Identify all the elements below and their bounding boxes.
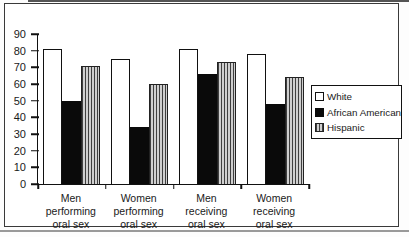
legend-label-hispanic: Hispanic [327, 122, 365, 133]
category-label-line: oral sex [105, 218, 173, 231]
y-axis-label-40: 40 [14, 112, 26, 123]
bar-hispanic-men-performing-oral-sex [81, 66, 100, 184]
category-label-line: Women [240, 192, 308, 205]
bar-hispanic-women-performing-oral-sex [149, 84, 168, 184]
category-label-line: Men [173, 192, 241, 205]
category-label-line: Women [105, 192, 173, 205]
x-axis-labels: Menperformingoral sexWomenperformingoral… [37, 192, 308, 231]
legend-swatch-hispanic [315, 123, 324, 132]
bar-african-american-men-performing-oral-sex [62, 101, 81, 184]
bar-hispanic-women-receiving-oral-sex [285, 77, 304, 184]
bar-african-american-men-receiving-oral-sex [198, 74, 217, 184]
page-rule-top [28, 0, 409, 2]
bar-group-men-receiving-oral-sex [174, 34, 242, 184]
category-label-women-performing-oral-sex: Womenperformingoral sex [105, 192, 173, 231]
y-axis-label-50: 50 [14, 95, 26, 106]
category-label-line: receiving [173, 205, 241, 218]
bar-group-women-performing-oral-sex [106, 34, 174, 184]
category-label-women-receiving-oral-sex: Womenreceivingoral sex [240, 192, 308, 231]
x-axis-tick-2 [173, 184, 175, 189]
plot-area [37, 34, 309, 185]
legend-label-african-american: African American [327, 107, 401, 118]
category-label-line: performing [37, 205, 105, 218]
legend-item-white: White [315, 91, 398, 102]
category-label-line: Men [37, 192, 105, 205]
category-label-line: receiving [240, 205, 308, 218]
category-label-line: performing [105, 205, 173, 218]
y-axis-label-60: 60 [14, 79, 26, 90]
category-label-men-receiving-oral-sex: Menreceivingoral sex [173, 192, 241, 231]
category-label-line: oral sex [173, 218, 241, 231]
bar-hispanic-men-receiving-oral-sex [217, 62, 236, 184]
x-axis-tick-0 [37, 184, 39, 189]
bar-group-women-receiving-oral-sex [241, 34, 309, 184]
x-axis-tick-1 [105, 184, 107, 189]
y-axis-label-70: 70 [14, 62, 26, 73]
bar-group-men-performing-oral-sex [38, 34, 106, 184]
legend-item-african-american: African American [315, 107, 398, 118]
category-label-men-performing-oral-sex: Menperformingoral sex [37, 192, 105, 231]
bar-white-women-performing-oral-sex [111, 59, 130, 184]
bar-white-women-receiving-oral-sex [247, 54, 266, 184]
category-label-line: oral sex [240, 218, 308, 231]
y-axis-label-30: 30 [14, 129, 26, 140]
bar-white-men-receiving-oral-sex [179, 49, 198, 184]
x-axis-tick-4 [308, 184, 310, 189]
bar-groups [38, 34, 309, 184]
x-axis-tick-3 [241, 184, 243, 189]
bar-african-american-women-receiving-oral-sex [266, 104, 285, 184]
y-axis-label-20: 20 [14, 145, 26, 156]
y-axis-label-0: 0 [20, 179, 26, 190]
legend-box: WhiteAfrican AmericanHispanic [311, 85, 402, 139]
chart-frame: 0102030405060708090 Menperformingoral se… [4, 3, 399, 227]
legend-swatch-african-american [315, 108, 324, 117]
legend-item-hispanic: Hispanic [315, 122, 398, 133]
y-axis-label-90: 90 [14, 29, 26, 40]
y-axis-label-80: 80 [14, 45, 26, 56]
legend-label-white: White [327, 91, 352, 102]
y-axis: 0102030405060708090 [5, 34, 37, 184]
legend-swatch-white [315, 92, 324, 101]
y-axis-label-10: 10 [14, 162, 26, 173]
bar-african-american-women-performing-oral-sex [130, 127, 149, 184]
category-label-line: oral sex [37, 218, 105, 231]
bar-white-men-performing-oral-sex [43, 49, 62, 184]
